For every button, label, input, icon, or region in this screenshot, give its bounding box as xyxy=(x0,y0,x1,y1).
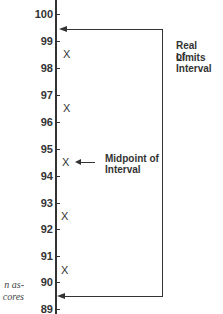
tick-label: 97 xyxy=(19,89,53,101)
tick-label: 92 xyxy=(19,223,53,235)
vertical-axis xyxy=(55,0,57,314)
arrowhead-left-icon xyxy=(57,293,65,299)
tick-label: 90 xyxy=(19,276,53,288)
x-mark: X xyxy=(61,264,68,276)
bracket-vertical-line xyxy=(162,29,164,297)
tick-label: 98 xyxy=(19,62,53,74)
x-mark: X xyxy=(63,102,70,114)
tick-100 xyxy=(55,14,60,15)
midpoint-arrow-line xyxy=(80,162,95,164)
tick-95 xyxy=(55,149,60,150)
tick-label: 91 xyxy=(19,250,53,262)
real-limits-label: of Interval xyxy=(176,51,223,75)
x-mark-midpoint: X xyxy=(62,156,69,168)
tick-90 xyxy=(55,282,60,283)
tick-label: 93 xyxy=(19,197,53,209)
upper-limit-line xyxy=(66,29,163,31)
tick-label: 94 xyxy=(19,170,53,182)
tick-89 xyxy=(55,309,60,310)
tick-97 xyxy=(55,95,60,96)
tick-label: 100 xyxy=(19,8,53,20)
tick-93 xyxy=(55,203,60,204)
tick-label: 95 xyxy=(19,143,53,155)
tick-label: 96 xyxy=(19,116,53,128)
tick-label: 89 xyxy=(19,303,53,314)
tick-label: 99 xyxy=(19,35,53,47)
side-text: cores xyxy=(0,290,24,303)
tick-99 xyxy=(55,41,60,42)
x-mark: X xyxy=(63,48,70,60)
lower-limit-line xyxy=(65,296,163,298)
tick-94 xyxy=(55,176,60,177)
x-mark: X xyxy=(61,210,68,222)
tick-92 xyxy=(55,229,60,230)
tick-98 xyxy=(55,68,60,69)
midpoint-label: Interval xyxy=(105,164,141,176)
tick-91 xyxy=(55,256,60,257)
tick-96 xyxy=(55,122,60,123)
